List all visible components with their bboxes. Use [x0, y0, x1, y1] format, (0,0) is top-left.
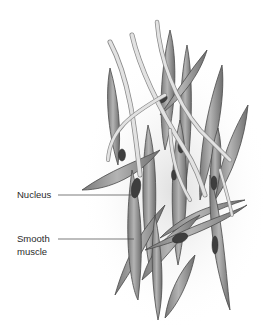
smooth-muscle-label: Smooth muscle [17, 232, 50, 258]
smooth-muscle-label-line2: muscle [17, 245, 50, 258]
nucleus-label: Nucleus [17, 188, 51, 201]
nucleus [119, 149, 126, 161]
nucleus [211, 176, 217, 190]
nucleus [212, 236, 218, 254]
smooth-muscle-illustration [0, 0, 264, 331]
smooth-muscle-label-line1: Smooth [17, 232, 50, 245]
